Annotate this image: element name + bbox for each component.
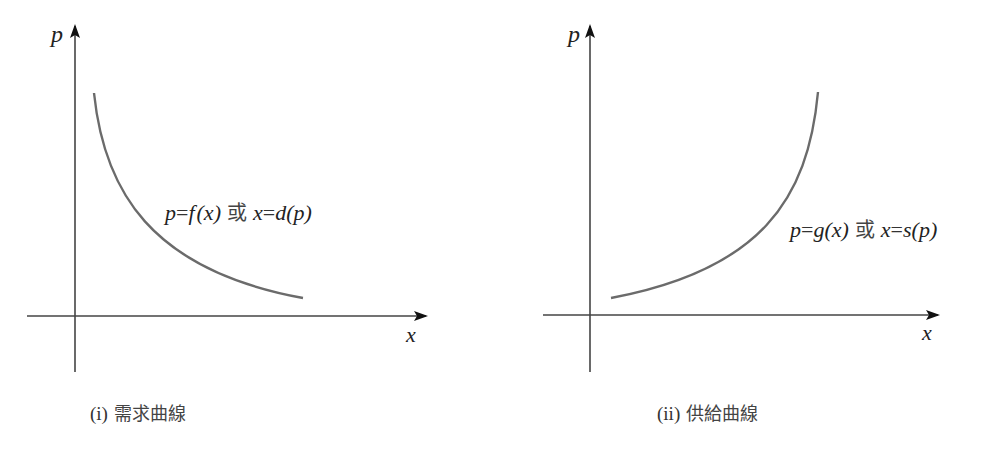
demand-caption: (i)需求曲線 [90,403,186,425]
supply-y-axis-label: p [566,21,580,47]
supply-panel: p x p=g(x)或x=s(p) (ii)供給曲線 [543,21,938,425]
supply-x-axis-label: x [921,320,932,345]
demand-x-axis-label: x [405,322,416,347]
demand-equation: p=f(x)或x=d(p) [163,200,312,225]
supply-curve [611,92,818,298]
supply-equation: p=g(x)或x=s(p) [788,217,937,242]
demand-curve [94,93,303,298]
diagram-canvas: p x p=f(x)或x=d(p) (i)需求曲線 p x p=g(x)或x=s… [0,0,985,455]
supply-caption: (ii)供給曲線 [657,403,758,425]
demand-y-axis-label: p [49,21,63,47]
demand-panel: p x p=f(x)或x=d(p) (i)需求曲線 [27,21,426,425]
